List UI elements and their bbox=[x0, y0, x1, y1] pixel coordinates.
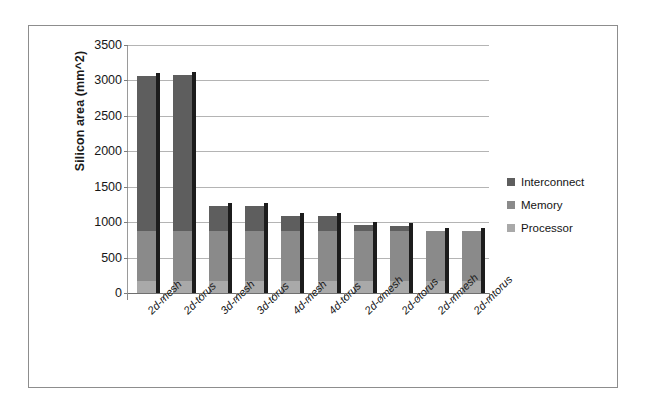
bar-segment-memory bbox=[354, 231, 373, 281]
legend-item[interactable]: Memory bbox=[507, 193, 615, 216]
bar-stack bbox=[209, 206, 228, 293]
y-tick-label: 3500 bbox=[94, 38, 122, 52]
bar-segment-processor bbox=[137, 281, 156, 293]
y-tick-label: 3000 bbox=[94, 73, 122, 87]
bar-segment-memory bbox=[426, 231, 445, 281]
y-tick-label: 1500 bbox=[94, 180, 122, 194]
y-tickmark bbox=[124, 258, 128, 259]
y-tick-label: 0 bbox=[115, 286, 122, 300]
y-tickmark bbox=[124, 151, 128, 152]
y-tickmark bbox=[124, 187, 128, 188]
y-tick-label: 500 bbox=[101, 251, 122, 265]
bar-segment-memory bbox=[173, 231, 192, 281]
bar-stack bbox=[137, 76, 156, 293]
bar-segment-interconnect bbox=[209, 206, 228, 232]
chart-figure-frame: Silicon area (mm^2) 05001000150020002500… bbox=[28, 25, 618, 388]
legend-swatch-icon bbox=[507, 201, 515, 209]
legend-label: Processor bbox=[521, 222, 573, 234]
bar-shadow bbox=[264, 203, 268, 293]
legend-item[interactable]: Interconnect bbox=[507, 170, 615, 193]
bar-segment-memory bbox=[281, 231, 300, 281]
bar-shadow bbox=[481, 228, 485, 293]
legend-label: Interconnect bbox=[521, 176, 584, 188]
y-tick-label: 2500 bbox=[94, 109, 122, 123]
bar-shadow bbox=[300, 213, 304, 293]
y-tick-label: 2000 bbox=[94, 144, 122, 158]
bar-segment-interconnect bbox=[281, 216, 300, 232]
bar-segment-memory bbox=[209, 231, 228, 281]
x-tickmark bbox=[127, 293, 128, 300]
y-tickmark bbox=[124, 80, 128, 81]
y-axis-title: Silicon area (mm^2) bbox=[73, 16, 87, 206]
bar-shadow bbox=[373, 222, 377, 293]
y-tick-label: 1000 bbox=[94, 215, 122, 229]
chart-legend: InterconnectMemoryProcessor bbox=[507, 170, 615, 239]
y-tickmark bbox=[124, 222, 128, 223]
y-tickmark bbox=[124, 45, 128, 46]
bar-shadow bbox=[192, 72, 196, 293]
legend-label: Memory bbox=[521, 199, 563, 211]
bar-segment-interconnect bbox=[137, 76, 156, 231]
bar-shadow bbox=[409, 223, 413, 293]
bar-segment-interconnect bbox=[173, 75, 192, 232]
bar-shadow bbox=[337, 213, 341, 293]
legend-swatch-icon bbox=[507, 224, 515, 232]
bar-segment-memory bbox=[390, 231, 409, 281]
bar-segment-interconnect bbox=[245, 206, 264, 232]
bar-shadow bbox=[445, 228, 449, 293]
bar-segment-memory bbox=[137, 231, 156, 281]
plot-area: 0500100015002000250030003500 bbox=[127, 45, 489, 293]
bar-segment-memory bbox=[318, 231, 337, 281]
bar-shadow bbox=[156, 73, 160, 293]
legend-item[interactable]: Processor bbox=[507, 216, 615, 239]
bar-segment-memory bbox=[245, 231, 264, 281]
bar-segment-interconnect bbox=[318, 216, 337, 232]
bar-shadow bbox=[228, 203, 232, 293]
legend-swatch-icon bbox=[507, 178, 515, 186]
y-gridline bbox=[128, 45, 489, 46]
y-tickmark bbox=[124, 116, 128, 117]
bar-stack bbox=[173, 75, 192, 293]
